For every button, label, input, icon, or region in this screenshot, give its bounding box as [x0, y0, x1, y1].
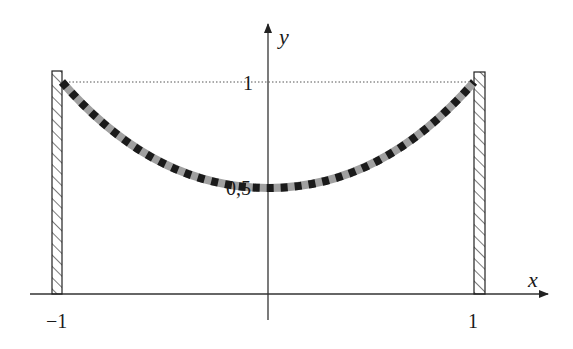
right-wall	[474, 72, 485, 294]
diagram-canvas: y x 1 0,5 −1 1	[0, 0, 573, 349]
x-axis-label: x	[527, 267, 538, 292]
tick-label-x-minus-1: −1	[46, 310, 67, 332]
left-wall	[52, 71, 62, 294]
tick-label-y-1: 1	[243, 72, 253, 94]
tick-label-y-0-5: 0,5	[226, 177, 251, 199]
y-axis-label: y	[277, 24, 289, 49]
tick-label-x-1: 1	[468, 310, 478, 332]
